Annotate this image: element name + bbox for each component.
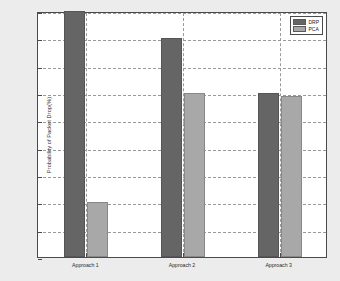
legend-label-drp: DRP — [308, 20, 319, 25]
y-axis-tick — [38, 232, 42, 233]
figure-canvas: Probability of Packet Drop(%) DRP PCA 00… — [0, 0, 340, 281]
y-axis-tick — [38, 68, 42, 69]
y-axis-tick — [38, 204, 42, 205]
y-axis-tick — [38, 150, 42, 151]
bar-pca-3 — [281, 96, 302, 257]
bar-pca-2 — [184, 93, 205, 257]
y-axis-tick — [38, 40, 42, 41]
y-axis-tick — [38, 95, 42, 96]
legend-item-pca[interactable]: PCA — [293, 26, 319, 32]
y-axis-tick — [38, 259, 42, 260]
legend-swatch-drp-icon — [293, 19, 306, 25]
legend-label-pca: PCA — [308, 27, 318, 32]
bar-drp-1 — [64, 11, 85, 257]
bar-drp-2 — [161, 38, 182, 257]
legend-swatch-pca-icon — [293, 26, 306, 32]
y-axis-title: Probability of Packet Drop(%) — [46, 35, 52, 235]
y-axis-tick — [38, 122, 42, 123]
x-axis-category-label: Approach 3 — [265, 263, 292, 268]
legend-item-drp[interactable]: DRP — [293, 19, 319, 25]
bar-drp-3 — [258, 93, 279, 257]
x-axis-category-label: Approach 2 — [169, 263, 196, 268]
plot-area: Probability of Packet Drop(%) DRP PCA — [37, 12, 327, 258]
chart-legend[interactable]: DRP PCA — [290, 16, 323, 35]
y-axis-tick — [38, 13, 42, 14]
bar-pca-1 — [87, 202, 108, 257]
y-axis-tick — [38, 177, 42, 178]
x-axis-category-label: Approach 1 — [72, 263, 99, 268]
